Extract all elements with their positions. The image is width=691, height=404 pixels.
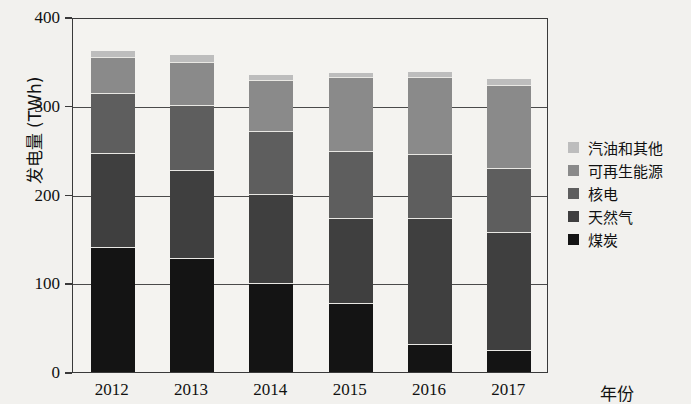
bar-segment[interactable]	[487, 350, 531, 372]
bar-segment[interactable]	[91, 57, 135, 93]
bar-segment[interactable]	[170, 170, 214, 259]
gridline	[73, 107, 547, 108]
bar-segment[interactable]	[170, 258, 214, 372]
bar-segment[interactable]	[408, 154, 452, 218]
legend-item[interactable]: 核电	[568, 182, 663, 205]
legend-item[interactable]: 煤炭	[568, 228, 663, 251]
stacked-bar-chart: 发电量 (TWh) 0100200300400 2012201320142015…	[0, 0, 691, 404]
legend-item[interactable]: 天然气	[568, 205, 663, 228]
legend-item-label: 汽油和其他	[588, 137, 663, 158]
legend-item-label: 核电	[588, 183, 618, 204]
bar-segment[interactable]	[249, 194, 293, 284]
y-axis-tick-label: 100	[0, 275, 60, 292]
bar-2013[interactable]	[170, 55, 214, 372]
bar-2012[interactable]	[91, 51, 135, 372]
y-axis-tick-label: 200	[0, 187, 60, 204]
bar-segment[interactable]	[329, 77, 373, 151]
y-axis-tick-label: 300	[0, 98, 60, 115]
bar-segment[interactable]	[249, 131, 293, 194]
bar-segment[interactable]	[249, 80, 293, 131]
bar-segment[interactable]	[170, 55, 214, 62]
x-axis-tick-label: 2016	[384, 380, 474, 400]
bar-segment[interactable]	[487, 232, 531, 350]
bar-segment[interactable]	[487, 85, 531, 168]
x-axis-tick-label: 2017	[463, 380, 553, 400]
legend-item[interactable]: 可再生能源	[568, 159, 663, 182]
bar-2015[interactable]	[329, 73, 373, 372]
bar-2016[interactable]	[408, 72, 452, 372]
gridline	[73, 284, 547, 285]
legend-item[interactable]: 汽油和其他	[568, 136, 663, 159]
x-axis-tick-label: 2013	[146, 380, 236, 400]
legend-item-label: 天然气	[588, 206, 633, 227]
y-axis-tick-mark	[65, 17, 72, 19]
x-axis-title: 年份	[600, 380, 634, 404]
legend: 汽油和其他可再生能源核电天然气煤炭	[568, 136, 663, 251]
bar-segment[interactable]	[170, 62, 214, 105]
bar-segment[interactable]	[170, 105, 214, 170]
y-axis-tick-mark	[65, 195, 72, 197]
bar-segment[interactable]	[408, 77, 452, 153]
legend-swatch-icon	[568, 234, 579, 245]
x-axis-tick-label: 2015	[305, 380, 395, 400]
bar-segment[interactable]	[329, 151, 373, 218]
y-axis-tick-mark	[65, 372, 72, 374]
legend-swatch-icon	[568, 142, 579, 153]
bar-segment[interactable]	[91, 93, 135, 152]
y-axis-tick-label: 0	[0, 364, 60, 381]
x-axis-tick-label: 2012	[67, 380, 157, 400]
y-axis-tick-mark	[65, 106, 72, 108]
y-axis-tick-label: 400	[0, 9, 60, 26]
plot-area	[72, 18, 548, 373]
bar-segment[interactable]	[329, 303, 373, 372]
bar-segment[interactable]	[91, 247, 135, 372]
bar-segment[interactable]	[408, 218, 452, 344]
legend-item-label: 可再生能源	[588, 160, 663, 181]
legend-swatch-icon	[568, 188, 579, 199]
y-axis-tick-mark	[65, 283, 72, 285]
legend-swatch-icon	[568, 211, 579, 222]
bar-2014[interactable]	[249, 75, 293, 372]
legend-item-label: 煤炭	[588, 229, 618, 250]
legend-swatch-icon	[568, 165, 579, 176]
bar-segment[interactable]	[329, 218, 373, 302]
gridline	[73, 196, 547, 197]
bar-segment[interactable]	[487, 168, 531, 232]
x-axis-tick-label: 2014	[225, 380, 315, 400]
bar-segment[interactable]	[408, 344, 452, 372]
bar-2017[interactable]	[487, 79, 531, 372]
bar-segment[interactable]	[91, 153, 135, 247]
bar-segment[interactable]	[249, 283, 293, 372]
